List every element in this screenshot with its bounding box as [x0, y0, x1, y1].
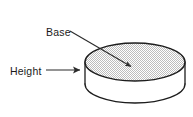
- cylinder-diagram-figure: Base Height: [0, 0, 193, 117]
- cylinder-shape: [85, 43, 185, 103]
- base-label: Base: [46, 26, 71, 38]
- diagram-canvas: Base Height: [0, 0, 193, 117]
- height-label: Height: [10, 65, 42, 77]
